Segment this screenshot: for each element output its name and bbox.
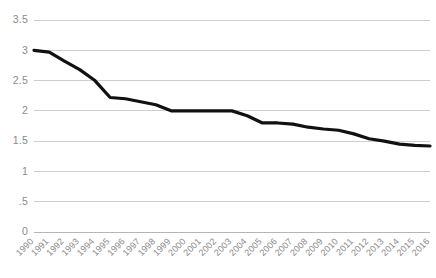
- y-tick-label-2.5: 2.5: [13, 74, 28, 86]
- y-tick-label-3.5: 3.5: [13, 13, 28, 25]
- y-tick-label-1.5: 1.5: [13, 134, 28, 146]
- y-tick-label-1: 1: [22, 165, 28, 177]
- y-tick-label-0.5: .5: [19, 195, 28, 207]
- y-tick-label-3: 3: [22, 44, 28, 56]
- y-tick-label-2: 2: [22, 104, 28, 116]
- line-chart: 0.511.522.533.5 199019911992199319941995…: [0, 0, 436, 278]
- chart-canvas: 0.511.522.533.5 199019911992199319941995…: [0, 0, 436, 278]
- y-tick-label-0: 0: [22, 225, 28, 237]
